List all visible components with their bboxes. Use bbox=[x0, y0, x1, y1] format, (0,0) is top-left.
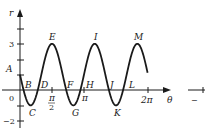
point-label-g: G bbox=[72, 108, 79, 118]
point-label-j: J bbox=[108, 80, 115, 90]
point-label-h: H bbox=[85, 80, 94, 90]
point-label-k: K bbox=[113, 108, 122, 118]
theta-tick-pi2-num: π bbox=[48, 93, 56, 103]
theta-axis-label: θ bbox=[167, 95, 173, 105]
point-label-f: F bbox=[66, 80, 74, 90]
point-label-a: A bbox=[5, 64, 13, 74]
theta-axis-arrow-icon bbox=[163, 87, 171, 93]
r-tick-0: 0 bbox=[9, 94, 14, 103]
r-axis-label: r bbox=[9, 8, 14, 18]
r-tick-3: 3 bbox=[9, 40, 14, 49]
point-label-m: M bbox=[133, 32, 144, 42]
point-label-b: B bbox=[24, 80, 32, 90]
theta-tick-pi: π bbox=[81, 93, 89, 103]
point-label-i: I bbox=[93, 32, 98, 42]
point-label-l: L bbox=[128, 80, 135, 90]
polar-function-graph: r θ 3 0 −2 π 2 π 2π A B C D E F G H I J … bbox=[0, 0, 205, 135]
theta-tick-pi2-den: 2 bbox=[49, 103, 54, 112]
point-label-c: C bbox=[29, 108, 36, 118]
theta-tick-2pi: 2π bbox=[140, 95, 154, 105]
adjacent-figure-label: − bbox=[191, 96, 198, 105]
point-label-d: D bbox=[40, 80, 48, 90]
r-axis-arrow-icon bbox=[17, 9, 23, 17]
r-tick-neg2: −2 bbox=[3, 117, 15, 126]
point-label-e: E bbox=[48, 32, 56, 42]
